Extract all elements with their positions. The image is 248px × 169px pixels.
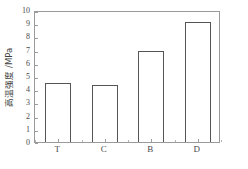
y-axis-tick-label: 7	[26, 47, 30, 55]
y-axis-tick-label: 9	[26, 20, 30, 28]
y-axis-tick-label: 5	[26, 73, 30, 81]
y-axis-title-label: 高温强度 /MPa	[5, 48, 14, 107]
y-axis-tick-label: 8	[26, 33, 30, 41]
x-axis-tick-mark	[105, 139, 106, 142]
bar-t	[45, 83, 71, 142]
x-axis-tick-labels: TCBD	[34, 145, 220, 161]
bar-chart: 高温强度 /MPa 012345678910 TCBD	[0, 0, 248, 169]
y-axis-tick-mark	[35, 78, 38, 79]
bar-d	[185, 22, 211, 142]
y-axis-tick-mark	[35, 25, 38, 26]
x-axis-tick-mark	[58, 139, 59, 142]
x-axis-minor-tick-mark	[128, 140, 129, 142]
plot-area	[34, 11, 220, 143]
x-axis-minor-tick-mark	[175, 140, 176, 142]
bar-c	[92, 85, 118, 142]
x-axis-tick-mark	[198, 139, 199, 142]
x-axis-tick-mark	[151, 139, 152, 142]
y-axis-tick-mark	[35, 12, 38, 13]
x-axis-tick-label: D	[194, 145, 201, 154]
x-axis-tick-label: B	[147, 145, 153, 154]
y-axis-tick-label: 0	[26, 139, 30, 147]
y-axis-tick-labels: 012345678910	[16, 5, 32, 149]
y-axis-tick-mark	[35, 91, 38, 92]
y-axis-tick-label: 10	[22, 7, 30, 15]
y-axis-tick-mark	[35, 104, 38, 105]
y-axis-tick-mark	[35, 118, 38, 119]
x-axis-minor-tick-mark	[221, 140, 222, 142]
x-axis-minor-tick-mark	[82, 140, 83, 142]
y-axis-tick-mark	[35, 38, 38, 39]
y-axis-tick-label: 2	[26, 113, 30, 121]
x-axis-tick-label: C	[101, 145, 107, 154]
x-axis-minor-tick-mark	[35, 140, 36, 142]
y-axis-tick-label: 3	[26, 99, 30, 107]
y-axis-tick-label: 1	[26, 126, 30, 134]
y-axis-tick-label: 6	[26, 60, 30, 68]
y-axis-tick-mark	[35, 65, 38, 66]
y-axis-tick-mark	[35, 52, 38, 53]
bar-b	[138, 51, 164, 142]
y-axis-tick-label: 4	[26, 86, 30, 94]
x-axis-tick-label: T	[55, 145, 61, 154]
y-axis-tick-mark	[35, 143, 38, 144]
y-axis-tick-mark	[35, 131, 38, 132]
